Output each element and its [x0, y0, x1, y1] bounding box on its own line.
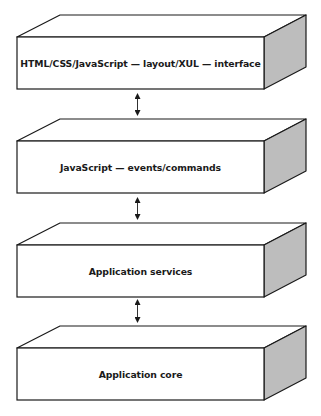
- box-top-face: [17, 223, 306, 245]
- box-top-face: [17, 119, 306, 141]
- layer-label-services: Application services: [17, 266, 264, 278]
- layer-label-interface: HTML/CSS/JavaScript — layout/XUL — inter…: [17, 58, 264, 70]
- layer-box-interface: [17, 15, 306, 89]
- box-top-face: [17, 326, 306, 348]
- layer-label-events: JavaScript — events/commands: [17, 162, 264, 174]
- layer-box-events: [17, 119, 306, 193]
- layer-label-core: Application core: [17, 369, 264, 381]
- layer-box-services: [17, 223, 306, 297]
- box-top-face: [17, 15, 306, 37]
- layer-box-core: [17, 326, 306, 400]
